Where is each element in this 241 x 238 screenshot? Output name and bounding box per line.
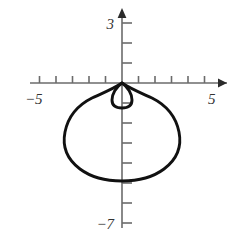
- x-axis-label-min: −5: [25, 91, 43, 107]
- y-axis-group: 3 −7: [96, 8, 132, 232]
- x-axis-arrow-icon: [218, 79, 227, 88]
- polar-plot-figure: −5 5 3 −7: [0, 0, 241, 238]
- x-axis-label-max: 5: [208, 91, 216, 107]
- y-axis-arrow-icon: [118, 8, 127, 18]
- y-axis-label-max: 3: [106, 16, 115, 32]
- y-axis-ticks: [122, 23, 132, 223]
- y-axis-label-min: −7: [96, 216, 115, 232]
- plot-canvas: −5 5 3 −7: [0, 0, 241, 238]
